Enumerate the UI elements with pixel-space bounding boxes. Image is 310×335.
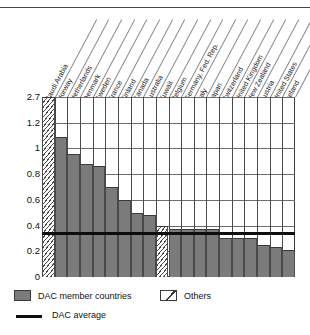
value-axis-tick-label: 0.6	[27, 195, 40, 205]
bar	[194, 229, 207, 277]
bar	[282, 250, 295, 277]
legend-label-dac: DAC member countries	[38, 291, 132, 301]
value-axis: 00.20.40.60.811.22.7	[0, 97, 40, 283]
value-axis-tick-label: 1	[35, 143, 40, 153]
bar	[118, 200, 131, 277]
bar	[270, 247, 283, 277]
bar	[42, 97, 55, 277]
bar	[93, 166, 106, 277]
bar	[55, 137, 68, 277]
legend-swatch-average-icon	[16, 315, 42, 318]
chart-legend: DAC member countries Others DAC average	[14, 288, 310, 334]
legend-label-others: Others	[184, 291, 211, 301]
bar	[244, 238, 257, 277]
bar	[80, 164, 93, 277]
bar	[143, 215, 156, 277]
value-axis-tick-label: 2.7	[27, 92, 40, 102]
bar	[67, 154, 80, 277]
value-axis-tick-label: 0.8	[27, 169, 40, 179]
dac-average-reference-line	[42, 232, 295, 235]
bar	[206, 229, 219, 277]
bar	[232, 238, 245, 277]
bar	[169, 229, 182, 277]
bar	[181, 229, 194, 277]
value-axis-tick-label: 0.4	[27, 221, 40, 231]
bar	[131, 213, 144, 277]
chart-plot-area	[42, 97, 295, 277]
value-axis-tick-label: 1.2	[27, 118, 40, 128]
legend-label-average: DAC average	[52, 310, 106, 320]
bar	[219, 238, 232, 277]
legend-swatch-dac-icon	[14, 290, 31, 301]
value-axis-tick-label: 0.2	[27, 246, 40, 256]
legend-swatch-others-icon	[160, 290, 177, 301]
category-axis-labels: Saudi ArabiaNorwayNetherlandsDenmarkSwed…	[0, 0, 310, 98]
value-axis-tick-label: 0	[35, 272, 40, 282]
bar	[257, 245, 270, 277]
